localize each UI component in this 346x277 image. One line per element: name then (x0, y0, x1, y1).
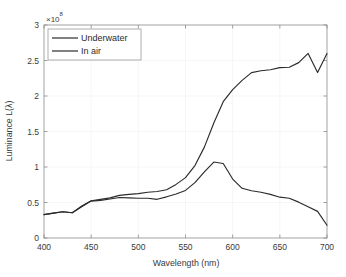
x-tick-labels: 400450500550600650700 (37, 242, 334, 252)
x-tick-label: 400 (37, 242, 51, 252)
x-tick-label: 650 (273, 242, 287, 252)
figure-container: 400450500550600650700 00.511.522.53 Unde… (0, 0, 346, 277)
y-tick-label: 2.5 (27, 56, 39, 66)
chart-legend[interactable]: UnderwaterIn air (48, 29, 141, 60)
x-axis-title: Wavelength (nm) (153, 258, 220, 268)
x-tick-label: 450 (84, 242, 98, 252)
y-tick-labels: 00.511.522.53 (27, 20, 39, 243)
x-tick-label: 600 (226, 242, 240, 252)
line-chart: 400450500550600650700 00.511.522.53 Unde… (0, 0, 346, 277)
y-tick-label: 0 (34, 233, 39, 243)
y-tick-label: 0.5 (27, 198, 39, 208)
x-tick-label: 700 (320, 242, 334, 252)
y-tick-label: 1 (34, 162, 39, 172)
y-axis-title: Luminance L(λ) (4, 101, 14, 162)
legend-label-in-air[interactable]: In air (81, 46, 101, 56)
y-tick-label: 2 (34, 91, 39, 101)
x-tick-label: 500 (131, 242, 145, 252)
x-tick-label: 550 (178, 242, 192, 252)
legend-label-underwater[interactable]: Underwater (81, 33, 128, 43)
y-axis-exponent-label: ×108 (46, 11, 64, 24)
y-tick-label: 1.5 (27, 127, 39, 137)
y-tick-label: 3 (34, 20, 39, 30)
